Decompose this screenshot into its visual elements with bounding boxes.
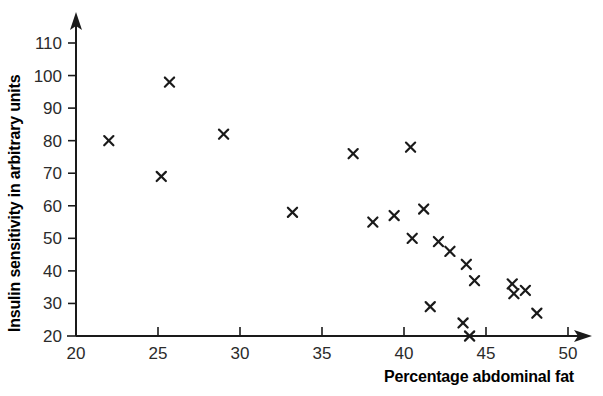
y-tick-label-80: 80: [43, 132, 62, 151]
x-tick-label-25: 25: [149, 344, 168, 363]
data-point: [368, 217, 377, 226]
x-tick-label-50: 50: [559, 344, 578, 363]
y-tick-label-50: 50: [43, 229, 62, 248]
x-tick-label-45: 45: [477, 344, 496, 363]
x-tick-marks: [76, 327, 568, 336]
plot-canvas: 2030405060708090100110 20253035404550 Pe…: [0, 0, 603, 396]
x-axis: 20253035404550: [67, 327, 592, 363]
data-point: [157, 172, 166, 181]
y-tick-label-100: 100: [34, 67, 62, 86]
x-tick-label-35: 35: [313, 344, 332, 363]
y-tick-label-90: 90: [43, 99, 62, 118]
y-axis: 2030405060708090100110: [34, 12, 85, 346]
y-tick-labels: 2030405060708090100110: [34, 34, 62, 346]
scatter-plot-figure: 2030405060708090100110 20253035404550 Pe…: [0, 0, 603, 396]
data-point: [532, 309, 541, 318]
x-tick-labels: 20253035404550: [67, 344, 578, 363]
y-tick-label-110: 110: [35, 34, 62, 53]
data-point: [408, 234, 417, 243]
data-point: [104, 136, 113, 145]
data-point: [521, 286, 530, 295]
y-axis-title: Insulin sensitivity in arbitrary units: [6, 74, 23, 332]
data-point: [390, 211, 399, 220]
data-point: [426, 302, 435, 311]
data-point: [508, 279, 517, 288]
x-axis-title: Percentage abdominal fat: [384, 368, 575, 385]
data-point: [462, 260, 471, 269]
data-point: [458, 318, 467, 327]
data-point: [165, 77, 174, 86]
data-point: [470, 276, 479, 285]
data-point: [419, 204, 428, 213]
y-tick-label-30: 30: [43, 294, 62, 313]
x-tick-label-30: 30: [231, 344, 250, 363]
data-point-group: [104, 77, 541, 340]
x-tick-label-20: 20: [67, 344, 86, 363]
data-point: [509, 289, 518, 298]
x-tick-label-40: 40: [395, 344, 414, 363]
data-point: [219, 130, 228, 139]
y-tick-label-70: 70: [43, 164, 62, 183]
y-tick-label-40: 40: [43, 262, 62, 281]
y-tick-label-20: 20: [43, 327, 62, 346]
data-point: [445, 247, 454, 256]
data-point: [349, 149, 358, 158]
y-tick-label-60: 60: [43, 197, 62, 216]
data-point: [434, 237, 443, 246]
data-point: [406, 143, 415, 152]
data-point: [288, 208, 297, 217]
